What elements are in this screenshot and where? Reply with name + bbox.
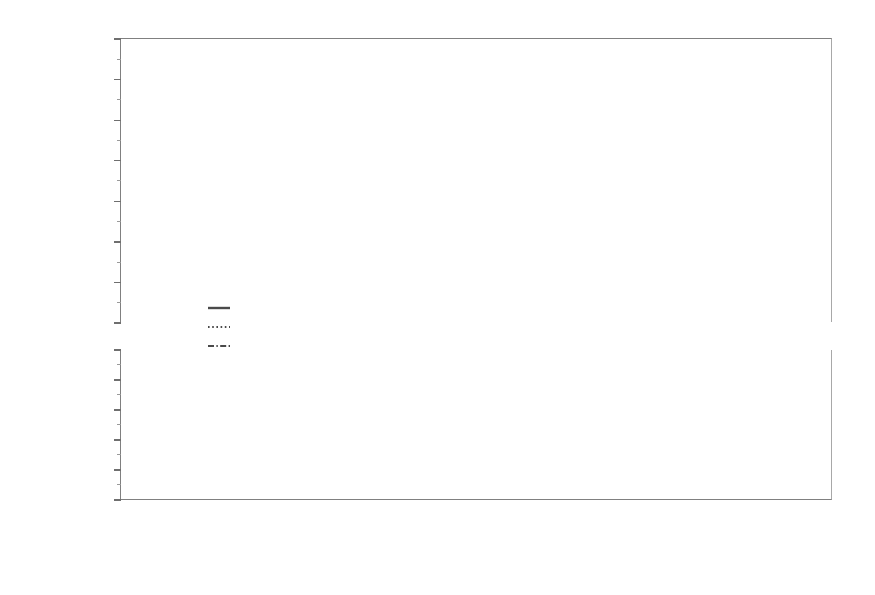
y-tick-mark [114, 349, 121, 350]
y-tick-mark [114, 160, 121, 161]
y-tick-mark [114, 409, 121, 410]
y-tick-mark [114, 499, 121, 500]
legend-line-solid-icon [208, 302, 230, 314]
top-panel-data-lines [121, 39, 831, 322]
y-tick-mark [114, 439, 121, 440]
legend-item [208, 298, 768, 317]
y-tick-mark [114, 322, 121, 323]
figure-canvas [0, 0, 875, 595]
legend-line-dotted-icon [208, 321, 230, 333]
legend-item [208, 317, 768, 336]
y-tick-mark [114, 241, 121, 242]
y-tick-mark [114, 79, 121, 80]
y-tick-mark [114, 201, 121, 202]
y-tick-mark [114, 379, 121, 380]
x-tick-labels [0, 516, 875, 538]
y-tick-mark [114, 120, 121, 121]
y-tick-mark [114, 282, 121, 283]
legend [208, 298, 768, 355]
bottom-plot-panel [120, 350, 832, 500]
y-tick-mark [114, 469, 121, 470]
top-plot-panel [120, 38, 832, 322]
y-tick-mark [114, 38, 121, 39]
bottom-panel-data-lines [121, 350, 831, 499]
